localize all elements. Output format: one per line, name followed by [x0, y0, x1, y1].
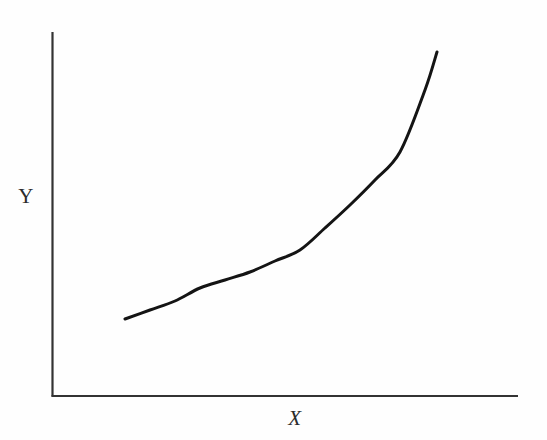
- chart-figure: Y X: [0, 0, 547, 440]
- y-axis-label: Y: [12, 186, 40, 207]
- x-axis-label: X: [281, 408, 309, 429]
- figure-background: [0, 0, 547, 440]
- plot-area: [0, 0, 547, 440]
